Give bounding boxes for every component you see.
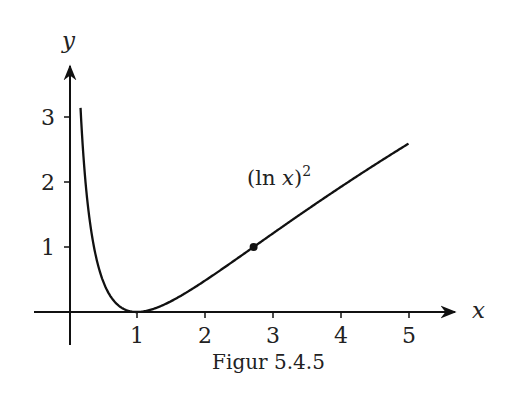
ln-x-squared-curve: [81, 108, 409, 312]
x-tick-label: 1: [130, 323, 144, 348]
x-tick-label: 3: [266, 323, 280, 348]
x-tick-label: 5: [402, 323, 416, 348]
chart: 1 2 3 4 5 1 2 3 x y (ln x)2: [0, 0, 507, 398]
curve-label: (ln x)2: [247, 163, 311, 190]
x-axis-label: x: [472, 297, 485, 323]
figure-caption: Figur 5.4.5: [0, 350, 507, 374]
y-tick-label: 1: [41, 235, 55, 260]
x-tick-label: 4: [334, 323, 348, 348]
y-tick-label: 3: [41, 105, 55, 130]
x-tick-label: 2: [198, 323, 212, 348]
y-tick-label: 2: [41, 170, 55, 195]
y-axis-label: y: [61, 27, 76, 53]
point-e-1: [250, 243, 258, 251]
